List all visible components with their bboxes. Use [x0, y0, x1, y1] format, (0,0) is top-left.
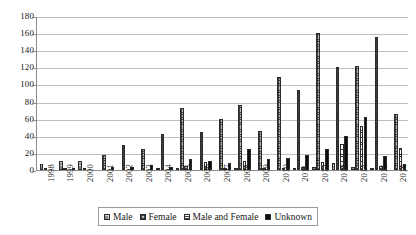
x-axis-tick-label: 2007 — [223, 164, 232, 182]
x-axis-tick-label: 2014 — [360, 164, 369, 182]
bar-group — [96, 17, 115, 170]
plot-area — [36, 17, 408, 171]
y-axis-tick-label: 140 — [0, 46, 34, 55]
x-axis-tick-cell: 1998 — [37, 172, 57, 206]
x-axis-tick-label: 2010 — [282, 164, 291, 182]
bar — [370, 168, 374, 170]
x-axis-tick-label: 2006 — [203, 164, 212, 182]
x-axis-tick-cell: 2013 — [331, 172, 351, 206]
y-axis-tick-label: 0 — [0, 166, 34, 175]
x-axis-tick-cell: 2007 — [213, 172, 233, 206]
bar-group — [116, 17, 135, 170]
legend-item[interactable]: Male — [104, 212, 133, 222]
x-axis-tick-label: 2009 — [262, 164, 271, 182]
x-axis-tick-cell: 2010 — [272, 172, 292, 206]
y-axis-tick-label: 40 — [0, 132, 34, 141]
x-axis-tick-label: 2008 — [243, 164, 252, 182]
bar-group — [77, 17, 96, 170]
x-axis-tick-label: 2004 — [164, 164, 173, 182]
legend-label: Female — [149, 212, 177, 222]
bar-group — [233, 17, 252, 170]
bar — [394, 114, 398, 170]
x-axis-tick-cell: 2006 — [194, 172, 214, 206]
x-axis-tick-cell: 2000 — [76, 172, 96, 206]
legend-label: Male — [113, 212, 133, 222]
x-axis-tick-cell: 2008 — [233, 172, 253, 206]
x-axis-tick-cell: 2004 — [154, 172, 174, 206]
bar-group — [57, 17, 76, 170]
y-axis-tick-label: 100 — [0, 80, 34, 89]
x-axis-tick-label: 2000 — [86, 164, 95, 182]
bar — [40, 164, 44, 170]
bar-group — [350, 17, 369, 170]
bar-chart: 020406080100120140160180 199819992000200… — [0, 0, 416, 235]
x-axis-tick-label: 2015 — [380, 164, 389, 182]
legend-swatch-icon — [265, 214, 271, 220]
legend-item[interactable]: Unknown — [265, 212, 311, 222]
bar — [293, 168, 297, 170]
legend-label: Unknown — [274, 212, 311, 222]
bar — [180, 108, 184, 170]
x-axis-tick-label: 2001 — [106, 164, 115, 182]
x-axis-tick-label: 2016 — [399, 164, 408, 182]
bar — [176, 168, 180, 170]
bar-group — [252, 17, 271, 170]
x-axis-tick-cell: 2016 — [389, 172, 409, 206]
x-axis-tick-cell: 2015 — [370, 172, 390, 206]
bar-group — [135, 17, 154, 170]
bar — [364, 117, 368, 170]
x-axis-tick-cell: 2003 — [135, 172, 155, 206]
bar-group — [213, 17, 232, 170]
x-axis-tick-label: 2011 — [301, 164, 310, 182]
bar — [336, 67, 340, 170]
x-axis-tick-cell: 2012 — [311, 172, 331, 206]
legend-item[interactable]: Male and Female — [184, 212, 259, 222]
x-axis-tick-label: 2005 — [184, 164, 193, 182]
x-axis-tick-label: 1999 — [66, 164, 75, 182]
y-axis-tick-label: 80 — [0, 98, 34, 107]
bar-group — [38, 17, 57, 170]
y-axis-tick-mark — [32, 171, 36, 172]
x-axis-tick-label: 1998 — [47, 164, 56, 182]
x-axis-tick-cell: 2001 — [96, 172, 116, 206]
x-axis-tick-label: 2002 — [125, 164, 134, 182]
bar-groups — [38, 17, 408, 170]
x-axis-tick-cell: 2009 — [252, 172, 272, 206]
bar-group — [369, 17, 388, 170]
bar-group — [388, 17, 407, 170]
x-axis-tick-labels: 1998199920002001200220032004200520062007… — [37, 172, 409, 206]
chart-legend: MaleFemaleMale and FemaleUnknown — [98, 207, 318, 226]
bar-group — [174, 17, 193, 170]
bar — [78, 161, 82, 170]
y-axis-tick-label: 120 — [0, 63, 34, 72]
x-axis-tick-cell: 2011 — [292, 172, 312, 206]
bar-group — [155, 17, 174, 170]
bar-group — [311, 17, 330, 170]
bar — [375, 37, 379, 170]
bar — [219, 119, 223, 170]
bar — [277, 77, 281, 170]
bar-group — [330, 17, 349, 170]
x-axis-tick-cell: 1999 — [57, 172, 77, 206]
bar — [316, 33, 320, 170]
bar — [234, 168, 238, 170]
bar — [59, 161, 63, 170]
bar-group — [272, 17, 291, 170]
legend-swatch-icon — [104, 214, 110, 220]
bar — [332, 163, 336, 170]
x-axis-tick-cell: 2014 — [350, 172, 370, 206]
y-axis-tick-label: 160 — [0, 29, 34, 38]
bar — [156, 168, 160, 170]
x-axis-tick-cell: 2005 — [174, 172, 194, 206]
bar — [238, 105, 242, 170]
legend-item[interactable]: Female — [140, 212, 177, 222]
legend-swatch-icon — [140, 214, 146, 220]
legend-label: Male and Female — [193, 212, 259, 222]
bar-group — [291, 17, 310, 170]
legend-swatch-icon — [184, 214, 190, 220]
y-axis-tick-label: 60 — [0, 115, 34, 124]
bar — [355, 66, 359, 170]
bar — [351, 167, 355, 170]
y-axis-tick-label: 20 — [0, 149, 34, 158]
x-axis-tick-label: 2012 — [321, 164, 330, 182]
